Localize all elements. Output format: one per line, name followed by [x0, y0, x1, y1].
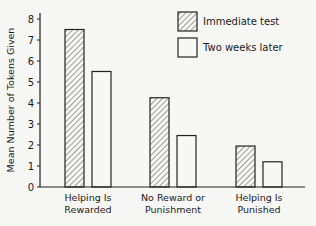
y-tick-label: 8	[28, 14, 34, 25]
legend-swatch-two-weeks-later	[178, 38, 197, 57]
category-label: Rewarded	[64, 204, 111, 215]
legend: Immediate testTwo weeks later	[178, 12, 284, 57]
category-label: Helping Is	[64, 192, 111, 203]
category-label: Helping Is	[235, 192, 282, 203]
y-axis: 012345678	[28, 13, 40, 193]
y-tick-label: 4	[28, 98, 34, 109]
x-axis: Helping IsRewardedNo Reward orPunishment…	[40, 187, 305, 215]
category-label: Punished	[237, 204, 280, 215]
bar-immediate-test	[65, 30, 84, 188]
bars	[65, 30, 282, 188]
y-tick-label: 3	[28, 119, 34, 130]
legend-swatch-immediate-test	[178, 12, 197, 31]
y-tick-label: 7	[28, 35, 34, 46]
y-tick-label: 0	[28, 182, 34, 193]
y-axis-label: Mean Number of Tokens Given	[5, 28, 16, 173]
bar-two-weeks-later	[92, 72, 111, 188]
y-tick-label: 2	[28, 140, 34, 151]
y-tick-label: 1	[28, 161, 34, 172]
bar-two-weeks-later	[263, 162, 282, 187]
y-tick-label: 6	[28, 56, 34, 67]
bar-two-weeks-later	[177, 136, 196, 187]
legend-label: Immediate test	[203, 16, 279, 27]
bar-chart: 012345678 Helping IsRewardedNo Reward or…	[0, 0, 316, 226]
y-tick-label: 5	[28, 77, 34, 88]
category-label: Punishment	[145, 204, 201, 215]
legend-label: Two weeks later	[202, 42, 284, 53]
bar-immediate-test	[150, 98, 169, 187]
bar-immediate-test	[236, 146, 255, 187]
category-label: No Reward or	[141, 192, 205, 203]
